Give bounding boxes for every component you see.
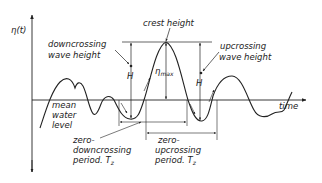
upcrossing-height-dot	[200, 72, 203, 75]
downcrossing-h-label: H	[127, 71, 134, 81]
mwl-label-3: level	[52, 120, 73, 130]
time-axis-label: time	[279, 101, 298, 111]
zd-label-2: downcrossing	[73, 145, 132, 155]
wave-definition-diagram: η(t) time crest height ηmax H downcrossi…	[0, 0, 322, 183]
eta-max-label: ηmax	[155, 66, 174, 77]
downcrossing-label-2: wave height	[48, 50, 101, 60]
zd-label-3: period. Tz	[72, 155, 115, 166]
downcrossing-height-dot	[130, 65, 133, 68]
flow-arrow-1	[121, 103, 127, 113]
zu-label-2: upcrossing	[155, 145, 202, 155]
downcrossing-label-1: downcrossing	[48, 39, 107, 49]
zd-leader	[100, 122, 141, 138]
upcrossing-h-label: H	[196, 78, 203, 88]
zd-label-1: zero-	[72, 135, 94, 145]
zu-label-1: zero-	[157, 135, 179, 145]
upcrossing-label-2: wave height	[219, 52, 272, 62]
crest-leader	[166, 28, 170, 41]
zu-label-3: period. Tz	[154, 155, 197, 166]
upcrossing-label-1: upcrossing	[220, 41, 267, 51]
crest-height-label: crest height	[143, 18, 195, 28]
upcrossing-leader	[203, 52, 219, 71]
mwl-label-2: water	[52, 110, 77, 120]
y-axis-label: η(t)	[11, 25, 26, 35]
mwl-label-1: mean	[52, 100, 76, 110]
downcrossing-leader	[115, 50, 129, 64]
